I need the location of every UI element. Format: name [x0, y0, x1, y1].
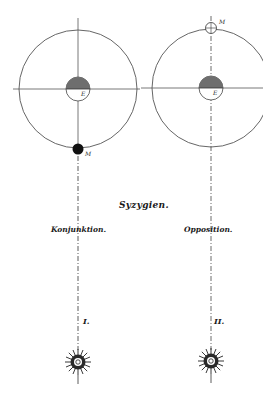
new-moon [73, 144, 84, 155]
sun-icon [198, 348, 224, 383]
diagram-title: Syzygien. [119, 201, 169, 210]
earth-label-left: E [81, 91, 85, 97]
moon-label-right: M [219, 19, 225, 25]
opposition-label: Opposition. [184, 226, 232, 234]
conjunction-label: Konjunktion. [51, 226, 106, 234]
earth-label-right: E [213, 90, 217, 96]
sun-icon [65, 349, 91, 384]
syzygy-diagram [0, 0, 263, 394]
numeral-one: I. [83, 317, 90, 325]
numeral-two: II. [214, 317, 224, 325]
moon-label-left: M [85, 151, 91, 157]
